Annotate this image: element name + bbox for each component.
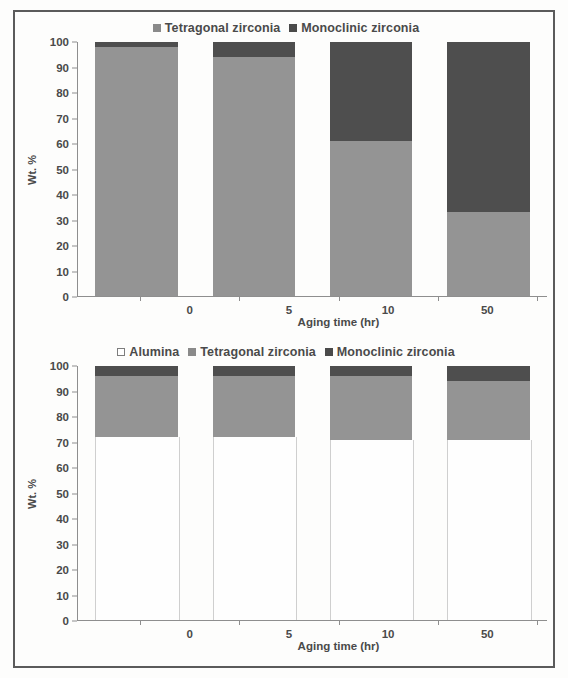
top-plot-area: 051050 Aging time (hr): [77, 42, 547, 297]
x-tick-label: 10: [353, 628, 423, 640]
x-tick-label: 5: [254, 304, 324, 316]
x-tick-mark: [239, 296, 240, 301]
y-tick-label: 50: [56, 488, 69, 500]
x-tick-label: 10: [353, 304, 423, 316]
x-tick-mark: [140, 620, 141, 625]
bar-segment: [213, 366, 296, 376]
bottom-x-axis-labels: 051050: [140, 628, 537, 640]
alumina-swatch-icon: [117, 348, 125, 356]
bar-segment: [447, 366, 530, 381]
legend-label-tetragonal: Tetragonal zirconia: [165, 21, 281, 35]
top-y-axis-ticks: 0102030405060708090100: [31, 42, 77, 297]
y-tick-label: 80: [56, 87, 69, 99]
bottom-y-axis-ticks: 0102030405060708090100: [31, 366, 77, 621]
bar-segment: [95, 376, 178, 437]
legend-label-monoclinic: Monoclinic zirconia: [337, 345, 455, 359]
top-x-axis-labels: 051050: [140, 304, 537, 316]
bar-segment: [447, 42, 530, 212]
bar-segment: [447, 440, 532, 620]
y-tick-label: 10: [56, 266, 69, 278]
bar-segment: [213, 437, 298, 620]
legend-item-monoclinic: Monoclinic zirconia: [289, 21, 419, 35]
figure-frame: Tetragonal zirconia Monoclinic zirconia …: [13, 10, 555, 668]
x-tick-mark: [339, 296, 340, 301]
bottom-chart-legend: Alumina Tetragonal zirconia Monoclinic z…: [15, 340, 557, 364]
bottom-chart-plot: Wt. % 0102030405060708090100 051050 Agin…: [15, 366, 557, 621]
x-tick-label: 0: [155, 628, 225, 640]
legend-item-alumina: Alumina: [117, 345, 179, 359]
x-tick-label: 50: [452, 628, 522, 640]
x-tick-mark: [537, 296, 538, 301]
y-tick-label: 50: [56, 164, 69, 176]
top-bar-group: [78, 42, 547, 296]
y-tick-label: 100: [50, 360, 69, 372]
bar-segment: [330, 440, 415, 620]
y-tick-label: 0: [63, 291, 69, 303]
bar-segment: [330, 141, 413, 296]
y-tick-label: 40: [56, 513, 69, 525]
legend-label-alumina: Alumina: [129, 345, 179, 359]
stacked-bar: [95, 366, 178, 620]
legend-item-tetragonal: Tetragonal zirconia: [153, 21, 281, 35]
bottom-bar-group: [78, 366, 547, 620]
stacked-bar: [213, 366, 296, 620]
top-chart-panel: Tetragonal zirconia Monoclinic zirconia …: [15, 16, 557, 338]
figure-page: Tetragonal zirconia Monoclinic zirconia …: [0, 0, 568, 678]
x-tick-label: 5: [254, 628, 324, 640]
stacked-bar: [95, 42, 178, 296]
y-tick-label: 60: [56, 138, 69, 150]
stacked-bar: [213, 42, 296, 296]
y-tick-label: 60: [56, 462, 69, 474]
y-tick-label: 70: [56, 113, 69, 125]
y-tick-label: 100: [50, 36, 69, 48]
y-tick-label: 20: [56, 564, 69, 576]
bottom-x-axis-title: Aging time (hr): [140, 640, 537, 652]
bar-segment: [330, 366, 413, 376]
stacked-bar: [447, 42, 530, 296]
bar-segment: [95, 437, 180, 620]
y-tick-label: 30: [56, 215, 69, 227]
x-tick-mark: [339, 620, 340, 625]
bar-segment: [213, 42, 296, 57]
x-tick-mark: [140, 296, 141, 301]
top-x-axis-title: Aging time (hr): [140, 316, 537, 328]
stacked-bar: [447, 366, 530, 620]
stacked-bar: [330, 42, 413, 296]
top-chart-plot: Wt. % 0102030405060708090100 051050 Agin…: [15, 42, 557, 297]
x-tick-label: 50: [452, 304, 522, 316]
bar-segment: [330, 42, 413, 141]
tetragonal-swatch-icon: [153, 24, 161, 32]
y-tick-label: 70: [56, 437, 69, 449]
bar-segment: [447, 381, 530, 439]
tetragonal-swatch-icon: [188, 348, 196, 356]
monoclinic-swatch-icon: [289, 24, 297, 32]
y-tick-label: 0: [63, 615, 69, 627]
x-tick-mark: [537, 620, 538, 625]
y-tick-label: 80: [56, 411, 69, 423]
legend-item-tetragonal: Tetragonal zirconia: [188, 345, 316, 359]
bar-segment: [95, 47, 178, 296]
y-tick-label: 10: [56, 590, 69, 602]
x-tick-mark: [438, 620, 439, 625]
legend-label-tetragonal: Tetragonal zirconia: [200, 345, 316, 359]
y-tick-label: 90: [56, 386, 69, 398]
y-tick-label: 20: [56, 240, 69, 252]
bar-segment: [330, 376, 413, 440]
y-tick-label: 40: [56, 189, 69, 201]
monoclinic-swatch-icon: [325, 348, 333, 356]
bar-segment: [447, 212, 530, 296]
bottom-plot-area: 051050 Aging time (hr): [77, 366, 547, 621]
legend-item-monoclinic: Monoclinic zirconia: [325, 345, 455, 359]
top-chart-legend: Tetragonal zirconia Monoclinic zirconia: [15, 16, 557, 40]
bar-segment: [213, 57, 296, 296]
x-tick-label: 0: [155, 304, 225, 316]
y-tick-label: 30: [56, 539, 69, 551]
bottom-chart-panel: Alumina Tetragonal zirconia Monoclinic z…: [15, 340, 557, 666]
y-tick-label: 90: [56, 62, 69, 74]
x-tick-mark: [239, 620, 240, 625]
bar-segment: [213, 376, 296, 437]
x-tick-mark: [438, 296, 439, 301]
bar-segment: [95, 366, 178, 376]
stacked-bar: [330, 366, 413, 620]
legend-label-monoclinic: Monoclinic zirconia: [301, 21, 419, 35]
